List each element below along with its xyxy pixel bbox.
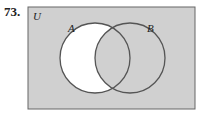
set-a-label: A [67, 22, 75, 34]
venn-diagram: U A B [0, 0, 198, 114]
universe-label: U [33, 10, 42, 22]
set-b-label: B [147, 22, 154, 34]
